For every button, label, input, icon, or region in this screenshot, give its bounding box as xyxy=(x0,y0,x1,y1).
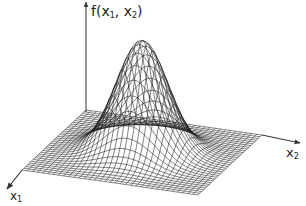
x2-axis-label: x2 xyxy=(286,146,299,161)
mesh-line xyxy=(198,135,262,195)
mesh-line xyxy=(79,96,143,178)
x2-axis xyxy=(262,135,300,143)
mesh-line xyxy=(54,41,230,165)
surface-plot xyxy=(0,0,306,206)
mesh-line xyxy=(182,133,246,193)
mesh-line xyxy=(48,66,224,171)
x1-axis-label: x1 xyxy=(10,190,22,204)
mesh-line xyxy=(58,46,234,161)
mesh-line xyxy=(56,41,232,163)
mesh-line xyxy=(22,170,198,195)
x1-axis xyxy=(7,170,22,189)
mesh-line xyxy=(58,115,122,175)
f-axis-label: f(x1, x2) xyxy=(91,4,143,20)
wireframe-mesh xyxy=(22,40,262,195)
mesh-line xyxy=(50,53,226,168)
mesh-line xyxy=(157,129,221,189)
